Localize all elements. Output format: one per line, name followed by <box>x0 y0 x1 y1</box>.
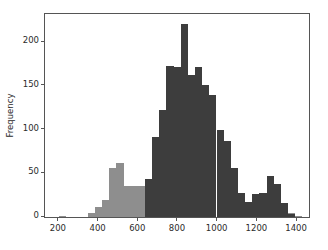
histogram-bar <box>159 110 166 217</box>
histogram-bar <box>238 193 245 217</box>
histogram-bar <box>188 75 195 217</box>
histogram-bar <box>131 186 138 217</box>
histogram-bar <box>274 184 281 217</box>
x-tick-label: 400 <box>89 223 105 234</box>
histogram-bar <box>252 194 259 217</box>
histogram-bar <box>95 207 102 217</box>
x-tick-label: 1400 <box>285 223 307 234</box>
x-tick-line <box>256 218 257 221</box>
histogram-bar <box>145 179 152 217</box>
histogram-bar <box>231 168 238 217</box>
y-tick-label: 150 <box>23 79 39 90</box>
histogram-bar <box>267 176 274 217</box>
histogram-bar <box>202 85 209 217</box>
histogram-bar <box>102 200 109 217</box>
histogram-bar <box>88 213 95 217</box>
histogram-bar <box>59 216 66 217</box>
histogram-bar <box>124 186 131 217</box>
x-tick-label: 1000 <box>206 223 228 234</box>
x-tick-line <box>296 218 297 221</box>
histogram-bar <box>209 95 216 218</box>
histogram-bar <box>181 24 188 217</box>
histogram-bar <box>224 141 231 217</box>
bars-layer <box>45 14 309 217</box>
x-tick-label: 200 <box>50 223 66 234</box>
histogram-bar <box>109 168 116 217</box>
x-tick-line <box>216 218 217 221</box>
histogram-bar <box>116 163 123 217</box>
histogram-bar <box>217 130 224 217</box>
histogram-bar <box>138 186 145 217</box>
y-tick-label: 50 <box>28 166 39 177</box>
histogram-bar <box>174 67 181 218</box>
x-tick-line <box>57 218 58 221</box>
x-tick-label: 800 <box>169 223 185 234</box>
histogram-bar <box>195 67 202 217</box>
x-tick-line <box>97 218 98 221</box>
plot-area <box>44 13 310 218</box>
histogram-bar <box>288 214 295 217</box>
x-axis: 200400600800100012001400 <box>44 218 310 248</box>
histogram-bar <box>295 216 302 217</box>
y-tick-label: 0 <box>34 210 39 221</box>
histogram-bar <box>152 137 159 218</box>
y-tick-label: 200 <box>23 35 39 46</box>
x-tick-label: 600 <box>129 223 145 234</box>
histogram-figure: Frequency 050100150200 20040060080010001… <box>0 0 328 250</box>
histogram-bar <box>166 66 173 217</box>
x-tick-line <box>176 218 177 221</box>
histogram-bar <box>259 193 266 217</box>
x-tick-label: 1200 <box>246 223 268 234</box>
y-axis: 050100150200 <box>0 13 44 219</box>
x-tick-line <box>137 218 138 221</box>
histogram-bar <box>281 203 288 217</box>
histogram-bar <box>245 202 252 217</box>
y-tick-label: 100 <box>23 123 39 134</box>
